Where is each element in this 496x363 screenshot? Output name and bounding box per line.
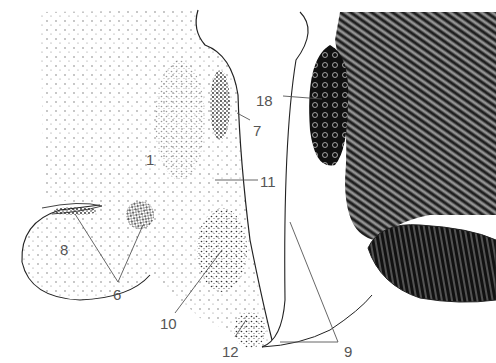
label-12: 12 bbox=[222, 344, 239, 359]
label-7: 7 bbox=[253, 123, 261, 138]
label-18: 18 bbox=[256, 93, 273, 108]
label-10: 10 bbox=[160, 316, 177, 331]
label-8: 8 bbox=[60, 242, 68, 257]
label-9: 9 bbox=[344, 344, 352, 359]
figure-drawing bbox=[0, 0, 496, 363]
label-6: 6 bbox=[113, 287, 121, 302]
label-1: 1 bbox=[146, 152, 154, 167]
label-11: 11 bbox=[260, 174, 276, 189]
anatomical-figure: 1 6 7 8 9 10 11 12 18 bbox=[0, 0, 496, 363]
